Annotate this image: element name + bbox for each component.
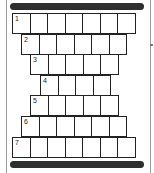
grid-cell[interactable]: 5 (30, 95, 49, 116)
grid-cell[interactable] (74, 116, 93, 137)
top-bar (10, 3, 144, 10)
grid-cell[interactable] (82, 137, 101, 158)
grid-cell[interactable] (74, 34, 93, 55)
grid-cell[interactable] (65, 137, 84, 158)
grid-cell[interactable] (83, 54, 102, 75)
grid-cell[interactable] (47, 137, 66, 158)
grid-cell[interactable] (56, 34, 75, 55)
grid-cell[interactable] (65, 95, 84, 116)
grid-cell[interactable] (91, 34, 110, 55)
grid-cell[interactable] (117, 13, 136, 34)
grid-cell[interactable] (100, 137, 119, 158)
grid-cell[interactable]: 7 (12, 137, 31, 158)
grid-cell[interactable] (82, 13, 101, 34)
row-number-label: 7 (15, 139, 19, 146)
grid-cell[interactable] (100, 95, 119, 116)
grid-cell[interactable]: 1 (12, 13, 31, 34)
grid-row-3: 3 (30, 54, 118, 75)
grid-cell[interactable]: 2 (21, 34, 40, 55)
grid-row-1: 1 (12, 13, 135, 34)
grid-cell[interactable] (47, 13, 66, 34)
grid-cell[interactable] (93, 75, 112, 96)
grid-cell[interactable] (58, 75, 77, 96)
grid-cell[interactable] (117, 137, 136, 158)
grid-row-6: 6 (21, 116, 126, 137)
grid-cell[interactable] (48, 95, 67, 116)
grid-row-2: 2 (21, 34, 126, 55)
grid-cell[interactable]: 6 (21, 116, 40, 137)
grid-row-4: 4 (40, 75, 110, 96)
grid-cell[interactable] (65, 13, 84, 34)
grid-cell[interactable] (30, 13, 49, 34)
grid-cell[interactable] (48, 54, 67, 75)
grid-cell[interactable] (56, 116, 75, 137)
grid-cell[interactable] (83, 95, 102, 116)
frame-tick-mark (150, 44, 153, 46)
row-number-label: 5 (33, 97, 37, 104)
grid-cell[interactable]: 4 (40, 75, 59, 96)
row-number-label: 6 (24, 118, 28, 125)
grid-cell[interactable] (100, 54, 119, 75)
grid-cell[interactable]: 3 (30, 54, 49, 75)
grid-cell[interactable] (75, 75, 94, 96)
row-number-label: 3 (33, 56, 37, 63)
grid-cell[interactable] (109, 116, 128, 137)
grid-cell[interactable] (30, 137, 49, 158)
bottom-bar (10, 161, 144, 168)
grid-cell[interactable] (39, 34, 58, 55)
grid-cell[interactable] (39, 116, 58, 137)
row-number-label: 2 (24, 36, 28, 43)
grid-row-7: 7 (12, 137, 135, 158)
row-number-label: 4 (43, 77, 47, 84)
grid-row-5: 5 (30, 95, 118, 116)
row-number-label: 1 (15, 15, 19, 22)
grid-cell[interactable] (109, 34, 128, 55)
grid-cell[interactable] (91, 116, 110, 137)
grid-cell[interactable] (100, 13, 119, 34)
grid-cell[interactable] (65, 54, 84, 75)
